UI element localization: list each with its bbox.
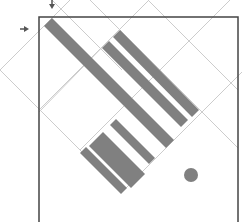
grid-line [39,30,119,112]
diagonal-bar [44,18,174,148]
right-arrow-marker [20,26,29,32]
down-arrow-icon [49,4,55,9]
gray-dot [184,168,198,182]
right-arrow-icon [24,26,29,32]
down-arrow-marker [49,0,55,9]
diagram-canvas [0,0,242,222]
diagonal-bars [44,18,199,194]
